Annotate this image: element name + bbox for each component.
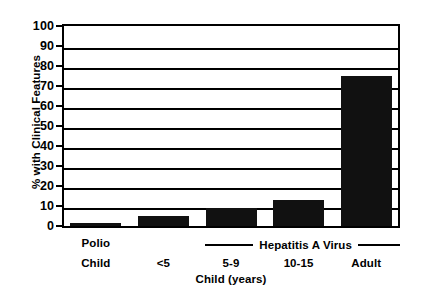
y-tick-label-100: 100 xyxy=(33,19,54,33)
y-tick-label-10: 10 xyxy=(40,199,54,213)
x-label-Adult: Adult xyxy=(332,257,400,269)
y-tick-label-40: 40 xyxy=(40,139,54,153)
y-tick-label-20: 20 xyxy=(40,179,54,193)
bar-chart-figure: % with Clinical Features 010203040506070… xyxy=(0,0,432,300)
y-tick-label-0: 0 xyxy=(47,219,54,233)
bar-Adult xyxy=(341,76,392,226)
x-label-<5: <5 xyxy=(130,257,198,269)
bar-<5 xyxy=(138,216,189,226)
y-tick-label-80: 80 xyxy=(40,59,54,73)
x-label-Polio: Child xyxy=(62,257,130,269)
bar-series xyxy=(62,24,400,228)
y-tick-label-30: 30 xyxy=(40,159,54,173)
x-label-10-15: 10-15 xyxy=(265,257,333,269)
bar-Polio xyxy=(70,223,121,226)
group-rule-right xyxy=(358,244,400,246)
y-tick-label-90: 90 xyxy=(40,39,54,53)
bar-5-9 xyxy=(206,208,257,226)
y-tick-label-70: 70 xyxy=(40,79,54,93)
x-axis-title: Child (years) xyxy=(62,273,400,285)
y-tick-label-50: 50 xyxy=(40,119,54,133)
group-annotation-row: Hepatitis A Virus xyxy=(62,237,400,253)
x-label-5-9: 5-9 xyxy=(197,257,265,269)
y-axis-ticks: 0102030405060708090100 xyxy=(0,24,62,228)
y-tick-label-60: 60 xyxy=(40,99,54,113)
group-rule-left xyxy=(205,244,253,246)
bar-10-15 xyxy=(273,200,324,226)
group-annotation-label: Hepatitis A Virus xyxy=(259,239,352,251)
